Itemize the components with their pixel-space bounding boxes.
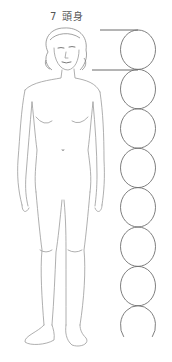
figure-left-leg-outer: [36, 192, 44, 325]
figure-left-shoulder: [25, 70, 62, 90]
figure-right-foot: [66, 325, 87, 346]
figure-chest-left: [36, 117, 52, 123]
figure-right-arm-outer: [100, 92, 104, 205]
figure-left-arm-outer: [18, 90, 25, 205]
figure-right-shoulder: [74, 69, 100, 92]
figure-left-leg-inner: [52, 200, 62, 325]
figure-torso-left: [32, 102, 37, 192]
figure-navel: [62, 150, 64, 151]
figure-chest-right: [72, 117, 88, 123]
figure-head: [45, 28, 86, 70]
figure-right-leg-outer: [80, 192, 90, 325]
head-unit-circle: [121, 266, 156, 305]
head-unit-circles: [121, 30, 156, 337]
figure-sketch: [18, 28, 105, 346]
figure-right-arm-inner: [93, 102, 97, 206]
figure-right-knee: [68, 250, 82, 252]
head-unit-circle-open: [121, 306, 156, 337]
figure-right-hand: [95, 205, 102, 212]
figure-left-arm-inner: [26, 102, 32, 206]
figure-torso-right: [88, 102, 93, 192]
head-unit-circle: [121, 30, 156, 69]
proportion-diagram: [0, 0, 172, 362]
figure-right-leg-inner: [64, 200, 66, 325]
head-unit-circle: [121, 227, 156, 266]
figure-left-foot: [25, 325, 54, 344]
head-unit-circle: [121, 188, 156, 227]
head-unit-circle: [121, 69, 156, 108]
head-unit-circle: [121, 109, 156, 148]
head-unit-circle: [121, 148, 156, 187]
